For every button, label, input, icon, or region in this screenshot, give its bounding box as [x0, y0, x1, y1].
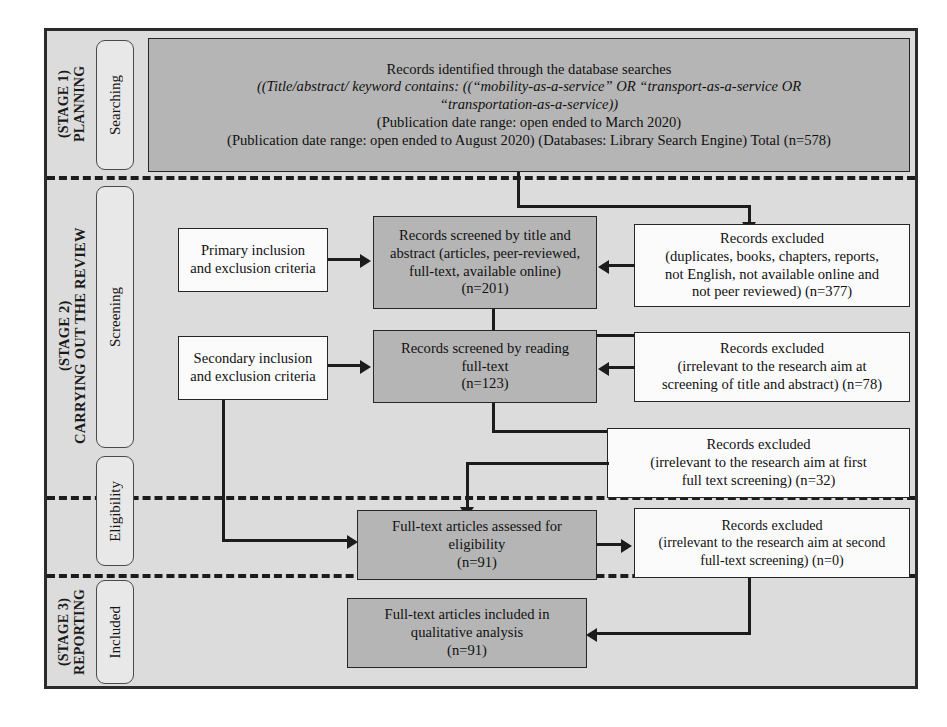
included-qualitative-count: (n=91): [354, 642, 580, 660]
node-records-identified: Records identified through the database …: [148, 38, 910, 172]
screened-title-abstract-line-2: abstract (articles, peer-reviewed,: [380, 245, 590, 263]
connector-excluded-first-down: [466, 462, 469, 510]
connector-eligibility-to-excluded-second: [597, 543, 623, 546]
excluded-title-abstract-line-1: Records excluded: [641, 340, 903, 358]
prisma-flow-diagram: (STAGE 1) PLANNING (STAGE 2) CARRYING OU…: [0, 0, 947, 727]
excluded-first-fulltext-line-3: full text screening) (n=32): [614, 472, 903, 490]
screened-title-abstract-line-1: Records screened by title and: [380, 227, 590, 245]
connector-secondary-right: [222, 539, 349, 542]
excluded-second-fulltext-line-3: full-text screening) (n=0): [641, 552, 903, 569]
connector-excluded-title-abstract-to-screened: [609, 366, 635, 369]
records-identified-line-4: (Publication date range: open ended to M…: [155, 114, 903, 132]
node-included-qualitative: Full-text articles included in qualitati…: [347, 598, 587, 668]
divider-stage1-stage2: [47, 176, 915, 180]
node-screened-title-abstract: Records screened by title and abstract (…: [373, 216, 597, 309]
excluded-duplicates-line-3: not English, not available online and: [641, 266, 903, 284]
assessed-eligibility-line-1: Full-text articles assessed for: [364, 518, 590, 536]
assessed-eligibility-count: (n=91): [364, 554, 590, 572]
phase-label-included: Included: [107, 606, 124, 658]
connector-primary-to-screened: [328, 258, 362, 261]
connector-secondary-to-screened-fulltext: [328, 364, 362, 367]
node-assessed-eligibility: Full-text articles assessed for eligibil…: [357, 510, 597, 580]
excluded-duplicates-line-1: Records excluded: [641, 230, 903, 248]
connector-secondary-down: [222, 400, 225, 542]
included-qualitative-line-2: qualitative analysis: [354, 624, 580, 642]
connector-identified-right: [517, 205, 751, 208]
excluded-duplicates-line-2: (duplicates, books, chapters, reports,: [641, 248, 903, 266]
secondary-criteria-line-1: Secondary inclusion: [185, 350, 321, 368]
node-excluded-duplicates: Records excluded (duplicates, books, cha…: [634, 224, 910, 307]
connector-excluded-first-left: [466, 462, 609, 465]
excluded-first-fulltext-line-2: (irrelevant to the research aim at first: [614, 454, 903, 472]
phase-label-searching: Searching: [107, 75, 124, 135]
secondary-criteria-line-2: and exclusion criteria: [185, 368, 321, 386]
primary-criteria-line-1: Primary inclusion: [185, 242, 321, 260]
screened-fulltext-line-2: full-text: [380, 358, 590, 376]
phase-label-screening: Screening: [107, 287, 124, 347]
phase-pill-included: Included: [96, 580, 134, 684]
node-screened-fulltext: Records screened by reading full-text (n…: [373, 330, 597, 403]
records-identified-line-3: “transportation-as-a-service)): [155, 96, 903, 114]
excluded-title-abstract-line-3: screening of title and abstract) (n=78): [641, 376, 903, 394]
arrowhead-excluded-title-abstract-to-screened: [598, 362, 609, 376]
phase-pill-searching: Searching: [96, 40, 134, 170]
screened-title-abstract-line-3: full-text, available online): [380, 263, 590, 281]
excluded-second-fulltext-line-1: Records excluded: [641, 517, 903, 534]
arrowhead-secondary-to-screened-fulltext: [360, 360, 371, 374]
node-primary-criteria: Primary inclusion and exclusion criteria: [178, 228, 328, 292]
arrowhead-to-included-qualitative: [586, 628, 597, 642]
connector-excluded-duplicates-to-screened: [609, 264, 635, 267]
node-excluded-second-fulltext: Records excluded (irrelevant to the rese…: [634, 508, 910, 578]
connector-excluded-second-down: [748, 578, 751, 635]
assessed-eligibility-line-2: eligibility: [364, 536, 590, 554]
excluded-first-fulltext-line-1: Records excluded: [614, 436, 903, 454]
records-identified-line-2: ((Title/abstract/ keyword contains: ((“m…: [155, 78, 903, 96]
phase-pill-screening: Screening: [96, 186, 134, 448]
node-excluded-title-abstract: Records excluded (irrelevant to the rese…: [634, 332, 910, 402]
excluded-title-abstract-line-2: (irrelevant to the research aim at: [641, 358, 903, 376]
node-excluded-first-fulltext: Records excluded (irrelevant to the rese…: [607, 428, 910, 498]
included-qualitative-line-1: Full-text articles included in: [354, 606, 580, 624]
node-secondary-criteria: Secondary inclusion and exclusion criter…: [178, 336, 328, 400]
arrowhead-eligibility-to-excluded-second: [621, 539, 632, 553]
arrowhead-excluded-duplicates-to-screened: [598, 260, 609, 274]
records-identified-line-5: (Publication date range: open ended to A…: [155, 132, 903, 150]
connector-screened2-down: [492, 403, 495, 433]
stage-label-planning: (STAGE 1) PLANNING: [52, 34, 92, 174]
screened-fulltext-line-1: Records screened by reading: [380, 340, 590, 358]
stage-label-reporting: (STAGE 3) REPORTING: [52, 578, 92, 686]
screened-title-abstract-count: (n=201): [380, 280, 590, 298]
excluded-duplicates-line-4: not peer reviewed) (n=377): [641, 283, 903, 301]
stage-label-carrying-out-review: (STAGE 2) CARRYING OUT THE REVIEW: [52, 180, 92, 492]
excluded-second-fulltext-line-2: (irrelevant to the research aim at secon…: [641, 534, 903, 551]
screened-fulltext-count: (n=123): [380, 375, 590, 393]
connector-identified-down: [517, 172, 520, 208]
connector-excluded-second-left: [597, 632, 751, 635]
phase-label-eligibility: Eligibility: [107, 481, 124, 542]
primary-criteria-line-2: and exclusion criteria: [185, 260, 321, 278]
phase-pill-eligibility: Eligibility: [96, 456, 134, 566]
records-identified-line-1: Records identified through the database …: [155, 61, 903, 79]
arrowhead-primary-to-screened: [360, 254, 371, 268]
